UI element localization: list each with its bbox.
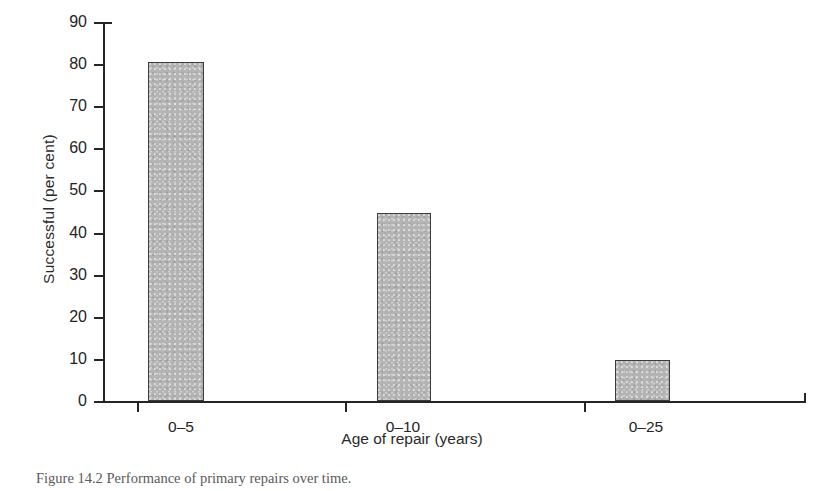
y-tick-label-50: 50 — [41, 182, 87, 198]
y-tick-label-0: 0 — [41, 393, 87, 409]
x-tick-0-5 — [137, 401, 139, 412]
y-tick-label-80: 80 — [41, 56, 87, 72]
y-tick-50 — [94, 190, 103, 192]
y-tick-label-group: 90 80 70 60 50 40 30 20 10 0 — [41, 22, 87, 403]
y-tick-label-90: 90 — [41, 14, 87, 30]
y-tick-80 — [94, 64, 103, 66]
y-tick-0 — [94, 401, 103, 403]
y-tick-label-60: 60 — [41, 140, 87, 156]
plot-area: 90 80 70 60 50 40 30 20 10 0 0–5 0–10 0–… — [103, 22, 806, 403]
y-tick-70 — [94, 106, 103, 108]
x-axis-spine — [103, 401, 806, 403]
figure-caption: Figure 14.2 Performance of primary repai… — [36, 470, 796, 487]
y-tick-label-30: 30 — [41, 267, 87, 283]
y-tick-30 — [94, 275, 103, 277]
x-tick-0-10 — [345, 401, 347, 412]
y-tick-label-10: 10 — [41, 351, 87, 367]
y-tick-90 — [94, 22, 103, 24]
bar-0-10 — [377, 213, 431, 402]
y-tick-label-70: 70 — [41, 98, 87, 114]
y-tick-60 — [94, 148, 103, 150]
x-axis-right-cap — [804, 393, 806, 403]
x-tick-0-25 — [584, 401, 586, 412]
y-axis-top-cap — [103, 22, 112, 24]
y-tick-label-40: 40 — [41, 225, 87, 241]
y-tick-10 — [94, 359, 103, 361]
y-tick-label-20: 20 — [41, 309, 87, 325]
y-tick-20 — [94, 317, 103, 319]
y-tick-40 — [94, 233, 103, 235]
bar-0-5 — [148, 62, 204, 401]
x-axis-title: Age of repair (years) — [0, 430, 824, 448]
figure-bar-chart: Successful (per cent) 90 80 70 60 50 40 … — [0, 0, 824, 491]
y-axis-spine — [103, 22, 105, 403]
bar-0-25 — [615, 360, 670, 401]
